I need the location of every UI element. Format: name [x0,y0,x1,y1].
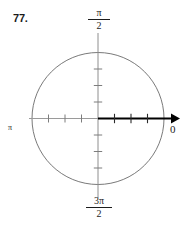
axis-label-pi-over-2: π 2 [88,8,110,31]
axis-label-three-pi-over-2-denominator: 2 [86,208,112,219]
right-arrowhead-icon [171,114,180,124]
axis-label-pi: π [8,124,12,132]
figure-page: 77. [0,0,184,225]
axis-label-pi-over-2-numerator: π [88,8,110,20]
axis-label-pi-over-2-denominator: 2 [88,20,110,31]
axis-label-three-pi-over-2: 3π 2 [86,196,112,219]
polar-circle-figure [0,0,184,225]
axis-label-zero: 0 [170,124,176,135]
axis-label-three-pi-over-2-numerator: 3π [86,196,112,208]
